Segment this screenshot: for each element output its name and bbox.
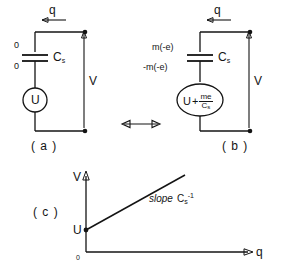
panel-a-capacitor-subscript: s: [62, 57, 66, 64]
panel-c-slope-superscript: -1: [188, 192, 194, 199]
panel-c-slope-symbol: C: [173, 193, 184, 204]
panel-a-charge-arrow: [42, 18, 66, 23]
panel-c-x-axis-label: q: [256, 246, 263, 258]
panel-b-capacitor-subscript: s: [227, 57, 231, 64]
panel-c-y-axis: [83, 171, 89, 252]
panel-a-charge-label: q: [49, 4, 56, 16]
panel-b-source-fraction-denominator: Cs: [199, 101, 212, 110]
panel-b-capacitor-label: Cs: [218, 51, 230, 64]
panel-a-top-plate-charge: 0: [14, 41, 19, 50]
panel-b-source-fraction-numerator: me: [199, 93, 212, 101]
panel-b-circuit: [177, 18, 252, 134]
panel-b-voltage-arrow: [247, 31, 252, 128]
panel-a-bottom-terminal: [83, 129, 88, 134]
panel-b-voltage-label: V: [254, 75, 262, 87]
panel-c-x-axis: [86, 249, 253, 255]
panel-a-source-label: U: [31, 94, 40, 106]
panel-a-capacitor-label: Cs: [53, 51, 65, 64]
panel-b-source-fraction-denominator-subscript: s: [207, 104, 210, 110]
figure-linework: [0, 0, 291, 267]
panel-c-tag: ( c ): [33, 206, 59, 218]
panel-c-slope-prefix: slope: [149, 193, 173, 204]
panel-b-bottom-terminal: [248, 129, 253, 134]
panel-b-source-symbol: U: [183, 95, 191, 107]
panel-a-voltage-label: V: [89, 75, 97, 87]
panel-c-plot: [83, 171, 253, 255]
panel-c-origin-label: 0: [76, 254, 80, 261]
panel-c-intercept-label: U: [73, 224, 82, 236]
panel-a-tag: ( a ): [31, 140, 57, 152]
panel-a-voltage-arrow: [82, 31, 87, 128]
panel-b-top-plate-charge: m(-e): [152, 43, 174, 52]
panel-a-capacitor-symbol: C: [53, 50, 62, 64]
panel-b-bottom-plate-charge: -m(-e): [143, 63, 168, 72]
equivalence-arrow: [122, 120, 160, 127]
panel-c-slope-annotation: slopeCs-1: [149, 192, 194, 205]
panel-b-source-expression: U+ me Cs: [183, 93, 213, 111]
panel-b-tag: ( b ): [222, 140, 248, 152]
panel-c-y-axis-label: V: [73, 171, 81, 183]
panel-b-source-fraction: me Cs: [199, 93, 212, 111]
panel-b-charge-arrow: [207, 18, 231, 23]
panel-c-intercept-point: [84, 228, 89, 233]
panel-b-charge-label: q: [214, 4, 221, 16]
panel-b-capacitor-symbol: C: [218, 50, 227, 64]
panel-a-bottom-plate-charge: 0: [14, 62, 19, 71]
panel-b-source-operator: +: [191, 95, 199, 107]
panel-a-circuit: [22, 18, 87, 134]
physics-figure: q 0 0 Cs U V ( a ) q m(-e) -m(-e) Cs U+ …: [0, 0, 291, 267]
